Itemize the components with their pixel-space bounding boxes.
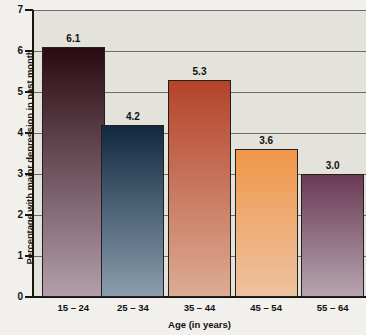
x-tick-label: 25 – 34 xyxy=(101,303,164,313)
bar-value-label: 3.0 xyxy=(301,161,364,171)
bar xyxy=(235,149,298,297)
bar-value-label: 5.3 xyxy=(168,67,231,77)
y-tick-mark xyxy=(25,91,33,93)
x-tick-label: 55 – 64 xyxy=(301,303,364,313)
y-tick-mark xyxy=(25,50,33,52)
x-tick-label: 45 – 54 xyxy=(235,303,298,313)
y-tick-label: 3 xyxy=(10,169,23,179)
y-tick-label: 1 xyxy=(10,251,23,261)
y-tick-label: 7 xyxy=(10,5,23,15)
bar xyxy=(42,47,105,297)
x-axis-title: Age (in years) xyxy=(33,319,366,330)
bar xyxy=(101,125,164,297)
y-tick-label: 5 xyxy=(10,87,23,97)
gridline xyxy=(33,10,366,11)
bar-value-label: 3.6 xyxy=(235,136,298,146)
bar xyxy=(301,174,364,297)
x-tick-label: 35 – 44 xyxy=(168,303,231,313)
y-tick-mark xyxy=(25,296,33,298)
bar xyxy=(168,80,231,297)
y-tick-mark xyxy=(25,255,33,257)
y-tick-label: 4 xyxy=(10,128,23,138)
bar-chart-figure: Percentage with major depression in past… xyxy=(0,0,366,335)
bar-value-label: 4.2 xyxy=(101,112,164,122)
y-tick-label: 2 xyxy=(10,210,23,220)
y-tick-label: 6 xyxy=(10,46,23,56)
y-tick-label: 0 xyxy=(10,292,23,302)
y-tick-mark xyxy=(25,9,33,11)
x-tick-label: 15 – 24 xyxy=(42,303,105,313)
y-tick-mark xyxy=(25,132,33,134)
y-tick-mark xyxy=(25,173,33,175)
bar-value-label: 6.1 xyxy=(42,34,105,44)
y-tick-mark xyxy=(25,214,33,216)
